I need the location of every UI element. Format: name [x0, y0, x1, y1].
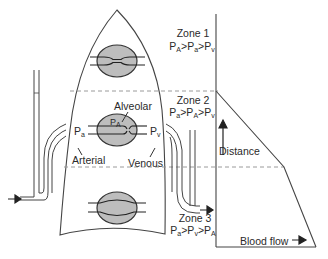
zone-2-relation: Pa>PA>Pv	[166, 107, 218, 119]
alveolus-zone-1	[97, 45, 137, 77]
zone-2-label: Zone 2	[170, 95, 216, 106]
pa-arterial-label: Pa	[74, 126, 85, 138]
zone-3-relation: Pa>Pv>PA	[166, 225, 220, 237]
zone-3-label: Zone 3	[172, 213, 218, 224]
alveolus-zone-3	[97, 192, 137, 224]
blood-flow-arrow-icon	[292, 236, 306, 244]
arterial-label: Arterial	[72, 155, 105, 166]
zone-1-relation: PA>Pa>Pv	[166, 41, 218, 53]
blood-flow-label: Blood flow	[240, 236, 288, 247]
distance-label: Distance	[219, 146, 260, 157]
zone-1-label: Zone 1	[170, 28, 216, 39]
arrow-in-icon	[8, 195, 21, 203]
blood-flow-profile	[216, 91, 316, 247]
pv-venous-label: Pv	[150, 126, 161, 138]
lung-zones-diagram	[0, 0, 328, 259]
alveolar-label: Alveolar	[114, 101, 152, 112]
venous-label: Venous	[128, 158, 163, 169]
pa-alveolar-label: PA	[110, 118, 121, 128]
